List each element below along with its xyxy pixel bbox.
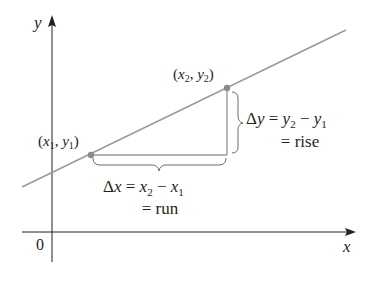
point-1-marker [88,152,94,158]
x-axis-label: x [342,237,351,256]
y-axis-label: y [32,13,42,32]
run-formula: Δx = x2 − x1 [103,177,184,198]
run-brace [93,158,226,171]
rise-brace [232,92,243,153]
point-2-label: (x2, y2) [173,66,214,84]
point-1-label: (x1, y1) [38,133,79,151]
origin-label: 0 [36,236,44,253]
rise-formula: Δy = y2 − y1 [246,109,327,130]
slope-diagram: y x 0 (x1, y1) (x2, y2) Δx = x2 − x1 = r… [0,0,372,287]
point-2-marker [224,85,230,91]
run-label: = run [142,199,179,218]
rise-label: = rise [281,132,319,151]
